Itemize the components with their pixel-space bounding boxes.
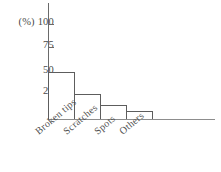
y-tick-group-50: 50 — [0, 72, 54, 73]
y-tick-group-100: (%) 100 — [0, 24, 54, 25]
y-tick-mark-75 — [48, 47, 54, 48]
y-tick-mark-100 — [48, 24, 54, 25]
y-tick-group-25: 25 — [0, 93, 54, 94]
y-tick-value-100: 100 — [38, 16, 54, 27]
y-tick-label-100: (%) 100 — [8, 16, 54, 27]
y-tick-label-75: 75 — [8, 39, 54, 50]
y-axis-unit-label: (%) — [18, 16, 34, 27]
y-tick-group-75: 75 — [0, 47, 54, 48]
pareto-bar-chart: (%) 100 75 50 25 Broken tips Scratches S… — [0, 0, 221, 172]
